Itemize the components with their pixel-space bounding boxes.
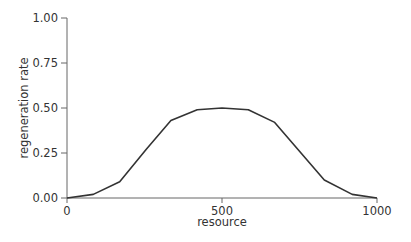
y-tick-label: 0.25 (32, 146, 58, 160)
x-tick-label: 1000 (362, 204, 391, 218)
y-tick-label: 0.50 (32, 101, 58, 115)
line-chart: 0.000.250.500.751.00 05001000 regenerati… (0, 0, 411, 242)
regeneration-rate-line (67, 108, 377, 198)
y-tick-label: 1.00 (32, 11, 58, 25)
x-tick-label: 0 (63, 204, 70, 218)
y-tick-label: 0.00 (32, 191, 58, 205)
y-axis: 0.000.250.500.751.00 (32, 11, 67, 205)
y-axis-label: regeneration rate (17, 57, 31, 158)
x-axis-label: resource (197, 215, 247, 229)
y-tick-label: 0.75 (32, 56, 58, 70)
